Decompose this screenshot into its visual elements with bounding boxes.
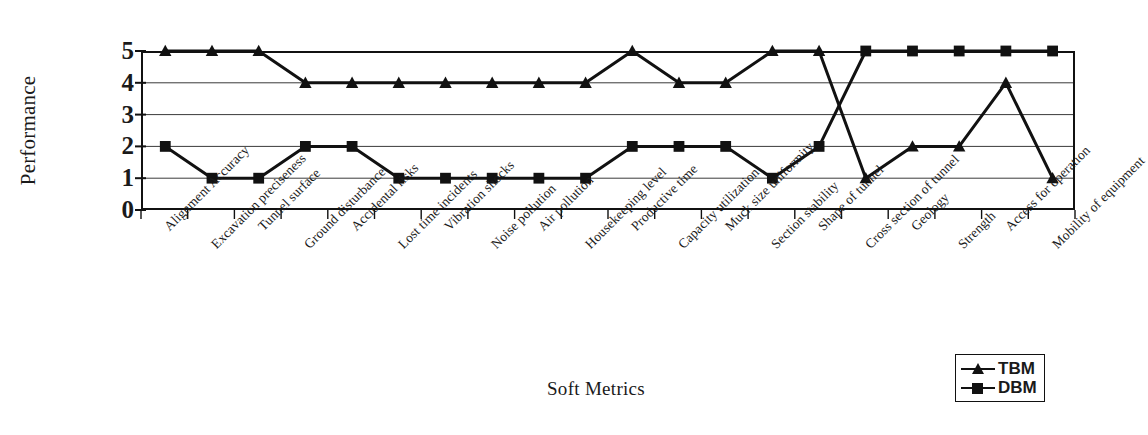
x-tick-label: Strength xyxy=(955,208,999,252)
chart-legend: TBMDBM xyxy=(955,354,1045,402)
y-tick-label: 1 xyxy=(104,165,134,190)
triangle-marker-icon xyxy=(961,360,995,378)
legend-label: DBM xyxy=(998,379,1037,396)
y-axis-title: Performance xyxy=(16,41,41,221)
legend-marker xyxy=(972,363,984,374)
y-tick-label: 4 xyxy=(104,70,134,95)
y-tick-label: 0 xyxy=(104,197,134,222)
square-marker-icon xyxy=(961,379,995,397)
legend-marker xyxy=(972,383,983,394)
y-tick-label: 3 xyxy=(104,102,134,127)
legend-item-dbm: DBM xyxy=(961,378,1037,397)
legend-item-tbm: TBM xyxy=(961,359,1037,378)
y-tick-label: 2 xyxy=(104,133,134,158)
x-axis-title-text: Soft Metrics xyxy=(547,378,645,399)
plot-area xyxy=(141,51,1075,210)
y-axis-tick-labels: 543210 xyxy=(98,0,134,435)
legend-label: TBM xyxy=(998,360,1035,377)
y-tick-label: 5 xyxy=(104,38,134,63)
x-axis-title: Soft Metrics xyxy=(0,378,1118,400)
plot-border xyxy=(141,51,1075,210)
